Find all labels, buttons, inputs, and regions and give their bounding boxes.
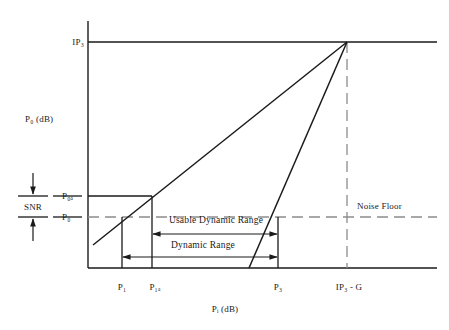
x-tick-label-p3: P₃ [274, 283, 283, 292]
y-tick-label-poa: P₀ₐ [62, 192, 73, 201]
usable-dynamic-range-label: Usable Dynamic Range [169, 216, 263, 226]
snr-label: SNR [24, 203, 42, 212]
x-tick-label-ip3-minus-g: IP₃ - G [336, 283, 363, 292]
y-axis-label: P₀ (dB) [25, 115, 53, 124]
x-axis-label: Pᵢ (dB) [212, 305, 239, 314]
dynamic-range-label: Dynamic Range [171, 241, 235, 251]
y-tick-label-ip3: IP₃ [72, 38, 84, 47]
plot-canvas [0, 0, 449, 330]
x-tick-label-p1: P₁ [118, 283, 127, 292]
noise-floor-label: Noise Floor [357, 202, 402, 211]
y-tick-label-po: P₀ [62, 213, 71, 222]
intermodulation-dynamic-range-diagram: P₀ (dB) Pᵢ (dB) IP₃ P₀ₐ P₀ SNR Noise Flo… [0, 0, 449, 330]
axis-lines [88, 21, 437, 268]
x-tick-label-p1a: P₁ₐ [149, 283, 160, 292]
